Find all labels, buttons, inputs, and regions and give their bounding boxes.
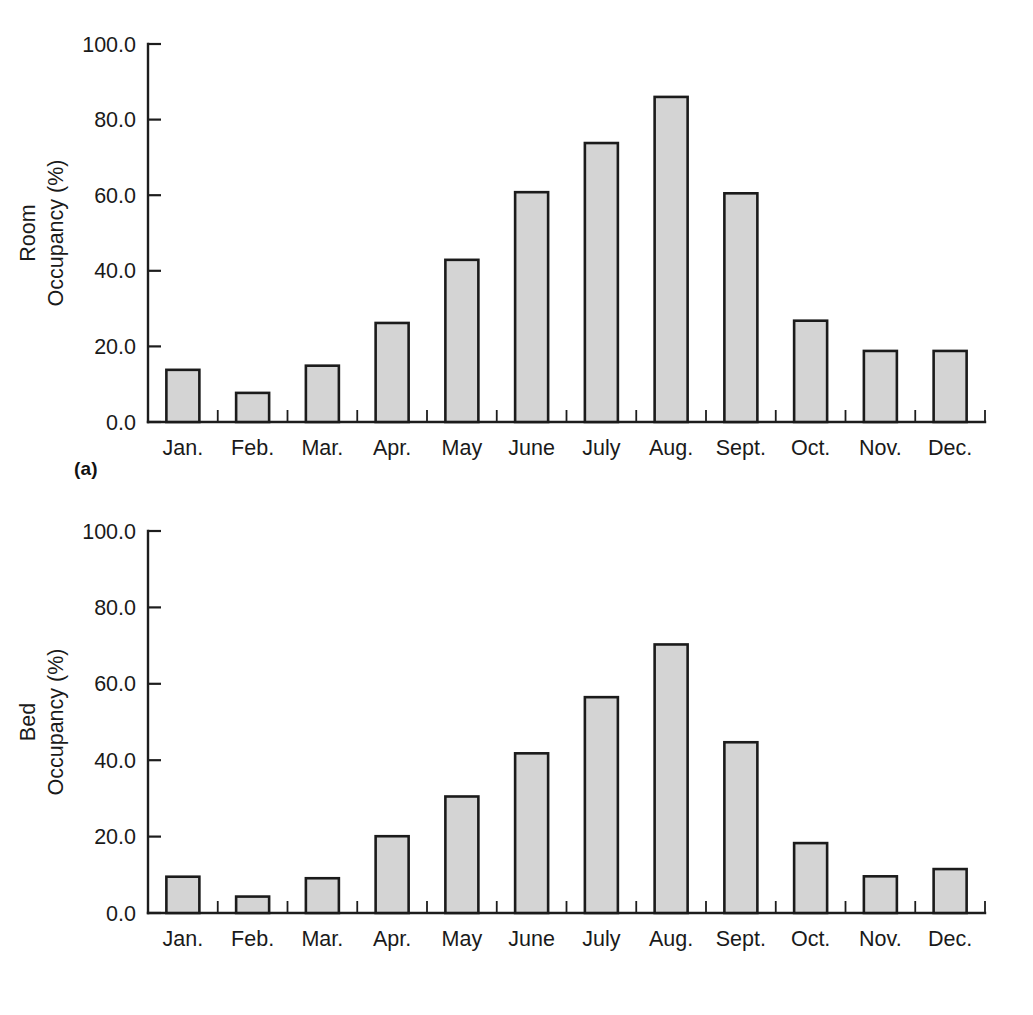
x-axis-tick-label: June xyxy=(508,927,555,951)
bar xyxy=(585,697,618,913)
chart-b-canvas: 0.020.040.060.080.0100.0Jan.Feb.Mar.Apr.… xyxy=(0,500,1033,1015)
x-axis-tick-label: Aug. xyxy=(649,927,693,951)
y-axis-tick-label: 60.0 xyxy=(94,184,136,208)
x-axis-tick-label: Feb. xyxy=(231,436,274,460)
y-axis-tick-label: 0.0 xyxy=(106,902,136,926)
x-axis-tick-label: May xyxy=(442,436,483,460)
x-axis-tick-label: Dec. xyxy=(928,927,972,951)
bar xyxy=(724,193,757,422)
bar xyxy=(236,897,269,913)
y-axis-title-line1: Bed xyxy=(16,703,40,741)
x-axis-tick-label: Mar. xyxy=(301,927,343,951)
figure-two-panel-bar-charts: 0.020.040.060.080.0100.0Jan.Feb.Mar.Apr.… xyxy=(0,0,1033,1015)
x-axis-tick-label: Dec. xyxy=(928,436,972,460)
bar xyxy=(376,323,409,422)
bar xyxy=(236,393,269,422)
x-axis-tick-label: Feb. xyxy=(231,927,274,951)
y-axis-tick-label: 80.0 xyxy=(94,596,136,620)
x-axis-tick-label: Apr. xyxy=(373,436,411,460)
x-axis-tick-label: Oct. xyxy=(791,927,830,951)
x-axis-tick-label: July xyxy=(582,436,620,460)
y-axis-tick-label: 20.0 xyxy=(94,825,136,849)
bar xyxy=(794,843,827,913)
bar xyxy=(934,351,967,422)
bar xyxy=(585,143,618,422)
y-axis-title: RoomOccupancy (%) xyxy=(16,160,68,307)
bar xyxy=(655,97,688,422)
y-axis-tick-label: 40.0 xyxy=(94,749,136,773)
x-axis-tick-label: Nov. xyxy=(859,436,902,460)
y-axis-title-line2: Occupancy (%) xyxy=(44,649,68,796)
y-axis-title-line1: Room xyxy=(16,204,40,261)
bar xyxy=(655,644,688,913)
x-axis-tick-label: Jan. xyxy=(163,436,204,460)
bar xyxy=(166,370,199,422)
y-axis-title-line2: Occupancy (%) xyxy=(44,160,68,307)
x-axis-tick-label: July xyxy=(582,927,620,951)
y-axis-tick-label: 60.0 xyxy=(94,672,136,696)
chart-a-canvas: 0.020.040.060.080.0100.0Jan.Feb.Mar.Apr.… xyxy=(0,0,1033,500)
x-axis-tick-label: Apr. xyxy=(373,927,411,951)
y-axis-tick-label: 0.0 xyxy=(106,411,136,435)
x-axis-tick-label: June xyxy=(508,436,555,460)
bar xyxy=(724,742,757,913)
y-axis-tick-label: 100.0 xyxy=(82,520,136,544)
y-axis-title: BedOccupancy (%) xyxy=(16,649,68,796)
bar xyxy=(864,876,897,913)
x-axis-tick-label: Sept. xyxy=(716,436,766,460)
x-axis-tick-label: Oct. xyxy=(791,436,830,460)
y-axis-tick-label: 100.0 xyxy=(82,33,136,57)
bar xyxy=(306,366,339,422)
x-axis-tick-label: Nov. xyxy=(859,927,902,951)
bar xyxy=(445,796,478,913)
bar xyxy=(515,753,548,913)
y-axis-tick-label: 40.0 xyxy=(94,259,136,283)
bar xyxy=(445,260,478,422)
panel-a-room-occupancy: 0.020.040.060.080.0100.0Jan.Feb.Mar.Apr.… xyxy=(0,0,1033,500)
y-axis-tick-label: 20.0 xyxy=(94,335,136,359)
panel-a-caption: (a) xyxy=(74,458,98,480)
x-axis-tick-label: Aug. xyxy=(649,436,693,460)
bar xyxy=(864,351,897,422)
bar xyxy=(376,836,409,913)
x-axis-tick-label: May xyxy=(442,927,483,951)
y-axis-tick-label: 80.0 xyxy=(94,108,136,132)
bar xyxy=(794,321,827,422)
x-axis-tick-label: Sept. xyxy=(716,927,766,951)
x-axis-tick-label: Mar. xyxy=(301,436,343,460)
panel-b-bed-occupancy: 0.020.040.060.080.0100.0Jan.Feb.Mar.Apr.… xyxy=(0,500,1033,1015)
bar xyxy=(934,869,967,913)
bar xyxy=(306,878,339,913)
x-axis-tick-label: Jan. xyxy=(163,927,204,951)
bar xyxy=(166,877,199,913)
bar xyxy=(515,192,548,422)
